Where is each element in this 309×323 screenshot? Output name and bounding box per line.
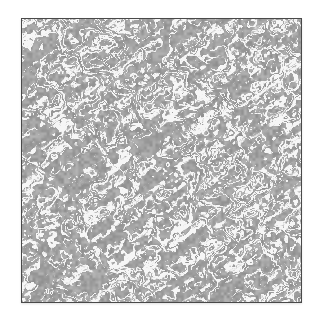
- pattern-image-frame: [21, 18, 302, 303]
- labyrinth-pattern-texture: [22, 19, 301, 302]
